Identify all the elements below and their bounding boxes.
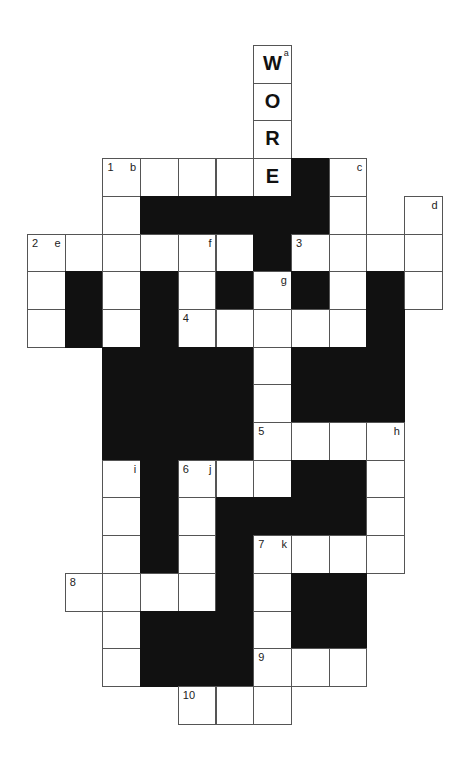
clue-number: 7: [258, 538, 264, 550]
grid-cell[interactable]: [291, 422, 330, 461]
filled-letter: W: [254, 52, 291, 75]
grid-cell[interactable]: 7k: [253, 535, 292, 574]
grid-cell[interactable]: 6j: [178, 460, 217, 499]
grid-cell[interactable]: [329, 422, 368, 461]
grid-cell[interactable]: [253, 573, 292, 612]
grid-cell[interactable]: 10: [178, 686, 217, 725]
grid-cell[interactable]: [404, 271, 443, 310]
grid-cell[interactable]: [329, 309, 368, 348]
grid-cell[interactable]: [253, 309, 292, 348]
clue-letter-label: b: [130, 161, 136, 173]
grid-cell[interactable]: 9: [253, 648, 292, 687]
grid-cell[interactable]: [140, 234, 179, 273]
clue-letter-label: k: [281, 538, 287, 550]
grid-cell[interactable]: g: [253, 271, 292, 310]
grid-cell[interactable]: [216, 158, 255, 197]
grid-cell[interactable]: [366, 460, 405, 499]
grid-cell[interactable]: [366, 535, 405, 574]
grid-cell[interactable]: [366, 234, 405, 273]
grid-cell[interactable]: 3: [291, 234, 330, 273]
grid-cell[interactable]: R: [253, 120, 292, 159]
black-cell: [102, 384, 141, 423]
grid-cell[interactable]: [178, 158, 217, 197]
grid-cell[interactable]: [253, 686, 292, 725]
grid-cell[interactable]: [404, 234, 443, 273]
grid-cell[interactable]: [27, 309, 66, 348]
clue-number: 8: [70, 576, 76, 588]
black-cell: [329, 497, 368, 536]
grid-cell[interactable]: [178, 535, 217, 574]
black-cell: [291, 611, 330, 650]
black-cell: [291, 497, 330, 536]
black-cell: [329, 347, 368, 386]
grid-cell[interactable]: 5: [253, 422, 292, 461]
grid-cell[interactable]: 2e: [27, 234, 66, 273]
black-cell: [140, 648, 179, 687]
grid-cell[interactable]: aW: [253, 45, 292, 84]
grid-cell[interactable]: [102, 573, 141, 612]
black-cell: [291, 460, 330, 499]
grid-cell[interactable]: 4: [178, 309, 217, 348]
grid-cell[interactable]: [102, 535, 141, 574]
grid-cell[interactable]: [291, 648, 330, 687]
grid-cell[interactable]: [102, 196, 141, 235]
grid-cell[interactable]: [178, 497, 217, 536]
grid-cell[interactable]: [140, 158, 179, 197]
clue-number: 2: [32, 237, 38, 249]
grid-cell[interactable]: [102, 234, 141, 273]
grid-cell[interactable]: O: [253, 83, 292, 122]
grid-cell[interactable]: [329, 648, 368, 687]
grid-cell[interactable]: [253, 611, 292, 650]
grid-cell[interactable]: 1b: [102, 158, 141, 197]
grid-cell[interactable]: [216, 460, 255, 499]
grid-cell[interactable]: [102, 271, 141, 310]
grid-cell[interactable]: E: [253, 158, 292, 197]
black-cell: [216, 196, 255, 235]
grid-cell[interactable]: [291, 309, 330, 348]
black-cell: [102, 422, 141, 461]
grid-cell[interactable]: [102, 497, 141, 536]
clue-number: 1: [107, 161, 113, 173]
grid-cell[interactable]: [291, 535, 330, 574]
clue-number: 3: [296, 237, 302, 249]
grid-cell[interactable]: [102, 648, 141, 687]
black-cell: [329, 611, 368, 650]
grid-cell[interactable]: [140, 573, 179, 612]
grid-cell[interactable]: [216, 309, 255, 348]
black-cell: [329, 573, 368, 612]
black-cell: [140, 460, 179, 499]
grid-cell[interactable]: [253, 384, 292, 423]
grid-cell[interactable]: [329, 535, 368, 574]
grid-cell[interactable]: i: [102, 460, 141, 499]
grid-cell[interactable]: [329, 196, 368, 235]
black-cell: [216, 611, 255, 650]
filled-letter: E: [254, 165, 291, 188]
clue-letter-label: d: [432, 199, 438, 211]
grid-cell[interactable]: [253, 347, 292, 386]
grid-cell[interactable]: [329, 271, 368, 310]
black-cell: [216, 271, 255, 310]
grid-cell[interactable]: [329, 234, 368, 273]
grid-cell[interactable]: [253, 460, 292, 499]
grid-cell[interactable]: [178, 573, 217, 612]
grid-cell[interactable]: [102, 611, 141, 650]
grid-cell[interactable]: h: [366, 422, 405, 461]
grid-cell[interactable]: [366, 497, 405, 536]
clue-letter-label: c: [357, 161, 363, 173]
crossword-grid: aWOR1bEcd2ef3g45hi6j7k8910: [27, 45, 442, 735]
grid-cell[interactable]: f: [178, 234, 217, 273]
grid-cell[interactable]: [178, 271, 217, 310]
black-cell: [216, 497, 255, 536]
grid-cell[interactable]: [65, 234, 104, 273]
black-cell: [140, 271, 179, 310]
black-cell: [216, 422, 255, 461]
clue-number: 9: [258, 651, 264, 663]
grid-cell[interactable]: [216, 234, 255, 273]
grid-cell[interactable]: c: [329, 158, 368, 197]
grid-cell[interactable]: [102, 309, 141, 348]
black-cell: [178, 347, 217, 386]
grid-cell[interactable]: d: [404, 196, 443, 235]
grid-cell[interactable]: 8: [65, 573, 104, 612]
grid-cell[interactable]: [27, 271, 66, 310]
grid-cell[interactable]: [216, 686, 255, 725]
